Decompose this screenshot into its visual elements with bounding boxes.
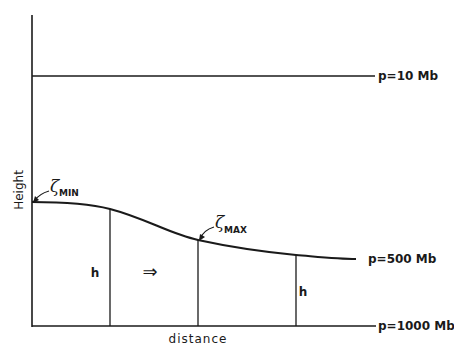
x-axis-label: distance	[169, 332, 228, 346]
diagram-canvas: Height distance p=10 Mb p=500 Mb p=1000 …	[0, 0, 454, 358]
zeta-max-subscript: MAX	[224, 225, 247, 235]
thickness-h-left: h	[91, 266, 100, 280]
thickness-h-right: h	[299, 285, 308, 299]
zeta-max-pointer-icon	[199, 227, 214, 241]
level-1000mb-label: p=1000 Mb	[378, 319, 454, 333]
level-10mb-label: p=10 Mb	[378, 69, 438, 83]
level-500mb-label: p=500 Mb	[368, 252, 437, 266]
flow-arrow-icon: ⇒	[142, 261, 157, 282]
level-500mb-curve	[32, 202, 356, 259]
zeta-min-subscript: MIN	[59, 188, 79, 198]
y-axis-label: Height	[12, 170, 26, 210]
